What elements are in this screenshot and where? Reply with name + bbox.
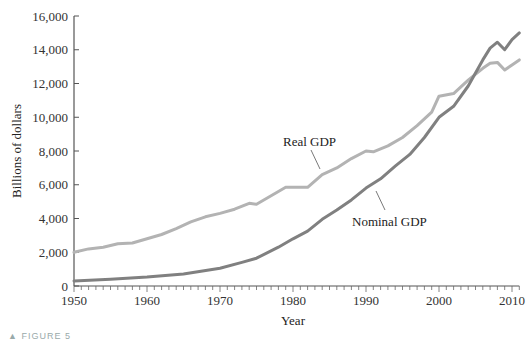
y-axis: 02,0004,0006,0008,00010,00012,00014,0001… — [32, 9, 79, 294]
y-tick-label: 8,000 — [39, 144, 68, 159]
x-tick-label: 1970 — [207, 293, 233, 308]
real-gdp-label: Real GDP — [283, 134, 336, 149]
nominal-gdp-pointer — [376, 191, 385, 210]
x-tick-label: 1990 — [353, 293, 379, 308]
y-tick-label: 0 — [62, 279, 69, 294]
y-tick-label: 12,000 — [32, 76, 68, 91]
y-tick-label: 2,000 — [39, 245, 68, 260]
x-tick-label: 1960 — [134, 293, 160, 308]
x-tick-label: 1980 — [280, 293, 306, 308]
annotation-nominal-gdp: Nominal GDP — [352, 191, 427, 229]
nominal-gdp-line — [74, 33, 519, 281]
gdp-line-chart: 02,0004,0006,0008,00010,00012,00014,0001… — [0, 0, 530, 340]
y-tick-label: 6,000 — [39, 177, 68, 192]
x-tick-label: 1950 — [61, 293, 87, 308]
nominal-gdp-label: Nominal GDP — [352, 214, 427, 229]
y-tick-label: 4,000 — [39, 211, 68, 226]
real-gdp-line — [74, 60, 519, 252]
figure-caption: ▲ FIGURE 5 — [8, 331, 71, 340]
annotation-real-gdp: Real GDP — [283, 134, 336, 169]
y-axis-title: Billions of dollars — [9, 104, 24, 198]
x-axis-title: Year — [281, 313, 306, 328]
x-tick-label: 2000 — [426, 293, 452, 308]
real-gdp-pointer — [311, 150, 320, 169]
series-lines — [74, 33, 519, 281]
x-axis: 1950196019701980199020002010 — [61, 286, 525, 308]
y-tick-label: 16,000 — [32, 9, 68, 24]
x-tick-label: 2010 — [499, 293, 525, 308]
y-tick-label: 14,000 — [32, 42, 68, 57]
y-tick-label: 10,000 — [32, 110, 68, 125]
